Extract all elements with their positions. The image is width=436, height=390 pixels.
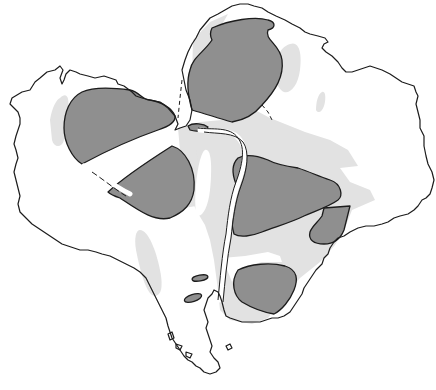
map [0, 0, 436, 390]
small-island [226, 344, 232, 350]
